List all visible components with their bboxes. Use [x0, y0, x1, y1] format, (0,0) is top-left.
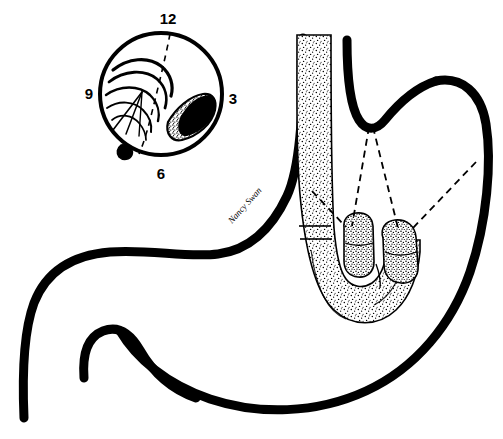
medical-illustration-figure: 12 3 6 9 Nancy Swan [0, 0, 503, 439]
projection-cardia-to-right-tip [373, 127, 398, 228]
inset-clock-label-6: 6 [157, 165, 165, 182]
projection-cardia-to-left-tip [352, 127, 369, 226]
dashed-projection-lines [312, 127, 476, 229]
scope-shaft-nub-icon [117, 145, 132, 160]
projection-right-wall-to-tip [412, 162, 476, 229]
figure-canvas: 12 3 6 9 Nancy Swan [0, 0, 503, 439]
endoscope-tip-right [382, 220, 418, 283]
inset-clock-label-12: 12 [160, 10, 177, 27]
inset-clock-label-3: 3 [229, 90, 237, 107]
inset-clock-label-9: 9 [85, 85, 93, 102]
artist-signature: Nancy Swan [225, 185, 263, 226]
antrum-pylorus [84, 329, 196, 398]
cardiac-notch [347, 40, 436, 128]
endoscopic-clock-face-view: 12 3 6 9 [85, 10, 237, 182]
